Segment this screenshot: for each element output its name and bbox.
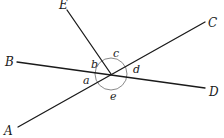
point-label-b: B (4, 55, 14, 69)
angle-label-d: d (133, 63, 140, 76)
angle-label-a: a (83, 74, 90, 87)
angle-label-b: b (91, 58, 98, 71)
angle-diagram: E B C D A a b c d e (0, 0, 224, 138)
line-bd (17, 62, 205, 88)
angle-label-c: c (113, 47, 119, 60)
ray-e (67, 10, 111, 74)
point-label-d: D (208, 85, 219, 99)
point-label-c: C (208, 16, 217, 30)
point-label-a: A (3, 124, 13, 138)
angle-label-e: e (110, 90, 117, 103)
point-label-e: E (58, 0, 68, 12)
